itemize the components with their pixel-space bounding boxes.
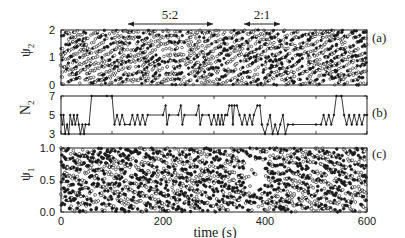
panel-a-label: (a) <box>372 30 386 45</box>
xtick-200: 200 <box>154 215 172 227</box>
panel-c-ytick-1: 1.0 <box>40 142 55 154</box>
panel-b-ytick-5: 5 <box>49 109 55 121</box>
annotation-2-1-label: 2:1 <box>254 7 271 22</box>
panel-a-ytick-1: 1 <box>49 51 55 63</box>
panel-b-ytick-3: 3 <box>49 128 55 140</box>
panel-c-ytick-0: 0.0 <box>40 206 55 218</box>
panel-c-ytick-05: 0.5 <box>40 174 55 186</box>
panel-a-ytick-2: 2 <box>49 24 55 36</box>
panel-b-label: (b) <box>372 105 387 120</box>
panel-a-scatter <box>59 29 368 87</box>
panel-b-markers <box>60 95 368 135</box>
panel-c-ylabel: ψ1 <box>18 168 36 181</box>
panel-c-label: (c) <box>372 146 386 161</box>
xtick-600: 600 <box>358 215 376 227</box>
xtick-400: 400 <box>256 215 274 227</box>
panel-a-ylabel: ψ2 <box>18 44 36 57</box>
xtick-0: 0 <box>58 215 64 227</box>
panel-c-scatter <box>59 147 367 214</box>
annotation-2-1: 2:1 <box>244 7 280 27</box>
figure: 5:2 2:1 2 1 0 ψ2 (a) 7 5 3 N2 (b) 1.0 0.… <box>0 0 405 238</box>
annotation-5-2-label: 5:2 <box>162 7 179 22</box>
x-axis-label: time (s) <box>193 225 236 238</box>
panel-b-ylabel: N2 <box>18 100 36 115</box>
annotation-5-2: 5:2 <box>128 7 213 27</box>
panel-b-ytick-7: 7 <box>49 90 55 102</box>
